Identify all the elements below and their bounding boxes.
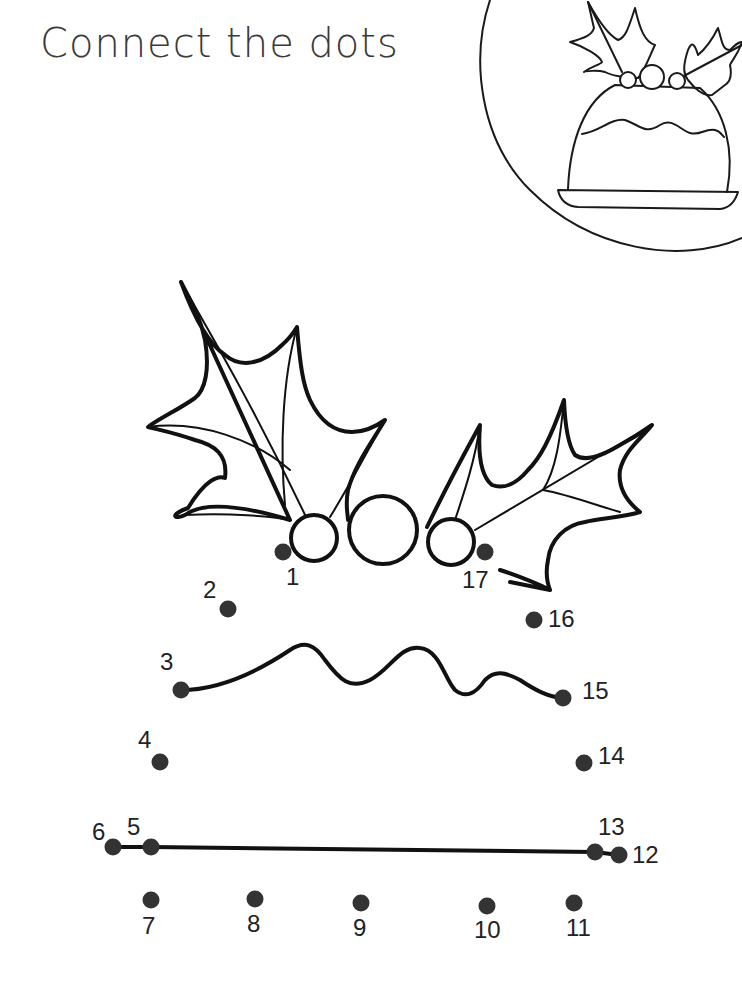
dot-7[interactable] [143,892,160,909]
dot-12[interactable] [611,847,628,864]
dot-number-13: 13 [598,815,625,839]
dot-15[interactable] [555,690,572,707]
dot-number-16: 16 [548,607,575,631]
dot-number-3: 3 [160,650,173,674]
dot-number-10: 10 [474,918,501,942]
dot-number-4: 4 [138,728,151,752]
dot-1[interactable] [275,544,292,561]
dot-number-12: 12 [632,843,659,867]
dot-4[interactable] [152,754,169,771]
dot-number-15: 15 [582,679,609,703]
dot-number-11: 11 [566,916,591,940]
dot-number-1: 1 [286,565,299,589]
dot-3[interactable] [173,682,190,699]
dot-number-8: 8 [247,912,260,936]
dot-13[interactable] [587,844,604,861]
dot-11[interactable] [566,895,583,912]
dot-14[interactable] [576,755,593,772]
dot-number-17: 17 [462,568,489,592]
dot-number-2: 2 [203,578,216,602]
dot-number-6: 6 [92,820,105,844]
dots-svg [0,0,742,994]
dot-2[interactable] [220,601,237,618]
dot-number-9: 9 [353,916,366,940]
dot-5[interactable] [143,839,160,856]
dot-16[interactable] [526,612,543,629]
dot-6[interactable] [105,839,122,856]
dot-10[interactable] [479,898,496,915]
dot-number-14: 14 [598,744,625,768]
dot-number-7: 7 [142,914,155,938]
dot-number-5: 5 [127,815,140,839]
dot-17[interactable] [477,544,494,561]
dot-8[interactable] [247,891,264,908]
dot-9[interactable] [353,895,370,912]
